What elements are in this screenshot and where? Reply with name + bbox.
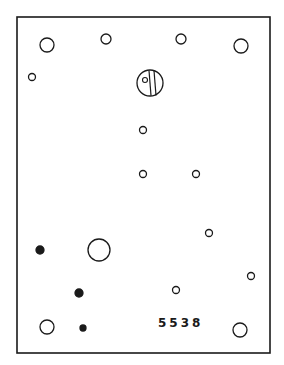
hole-left-filled-1 [36, 246, 44, 254]
hole-top-right-large [234, 39, 248, 53]
panel-outline [17, 17, 270, 353]
panel-diagram [0, 0, 284, 365]
hole-bottom-left-large [40, 320, 54, 334]
hole-top-mid-right [176, 34, 186, 44]
hole-center-3 [193, 171, 200, 178]
hole-left-filled-2 [75, 289, 83, 297]
hole-center-1 [140, 127, 147, 134]
hole-left-small [29, 74, 36, 81]
hole-center-2 [140, 171, 147, 178]
hole-bottom-filled [80, 325, 86, 331]
hole-big-hole [88, 239, 110, 261]
hole-right-1 [206, 230, 213, 237]
hole-right-2 [248, 273, 255, 280]
hole-top-mid-left [101, 34, 111, 44]
screw-slot-right [154, 71, 156, 96]
screw-pin-hole [143, 78, 148, 83]
hole-top-left-large [40, 38, 54, 52]
part-number-label: 5538 [158, 316, 203, 330]
hole-bottom-mid [173, 287, 180, 294]
hole-bottom-right-large [233, 323, 247, 337]
screw-slot-left [149, 71, 151, 96]
